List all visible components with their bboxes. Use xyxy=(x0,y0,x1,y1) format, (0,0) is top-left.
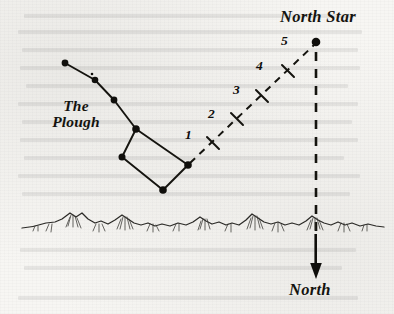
tick-label-5: 5 xyxy=(281,33,288,49)
tick-mark-4 xyxy=(282,65,294,77)
north-star-label: North Star xyxy=(280,8,356,25)
star-mizar xyxy=(92,77,99,84)
star-alcor xyxy=(91,73,94,76)
plough-label: The Plough xyxy=(40,98,112,131)
pointer-tick-marks xyxy=(207,65,294,149)
star-bowl-top-left xyxy=(132,125,140,133)
tick-mark-1 xyxy=(207,137,219,149)
mountain-horizon xyxy=(22,213,384,232)
star-chart-figure: North Star The Plough North 1 2 3 4 5 xyxy=(0,0,394,314)
north-label: North xyxy=(289,281,331,298)
diagram-artwork xyxy=(0,0,394,314)
tick-label-4: 4 xyxy=(256,58,263,74)
plough-label-line2: Plough xyxy=(40,114,112,130)
tick-label-3: 3 xyxy=(233,82,240,98)
plough-label-line1: The xyxy=(40,98,112,114)
star-bowl-left xyxy=(119,154,126,161)
star-north-star xyxy=(312,38,321,47)
pointer-line-dashed xyxy=(190,45,314,163)
north-arrow xyxy=(310,234,322,279)
star-handle-tip xyxy=(62,60,69,67)
star-bowl-bottom xyxy=(159,186,167,194)
tick-label-1: 1 xyxy=(185,127,192,143)
tick-label-2: 2 xyxy=(208,106,215,122)
